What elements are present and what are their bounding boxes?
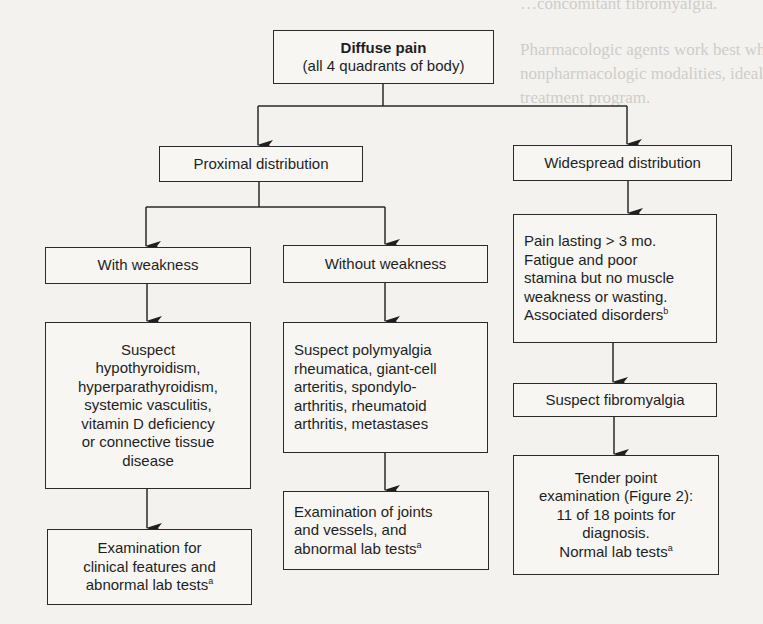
node-line: diagnosis.	[582, 524, 650, 543]
node-exam-with-weakness: Examination for clinical features and ab…	[47, 529, 252, 605]
node-widespread-distribution: Widespread distribution	[513, 145, 732, 181]
node-line: stamina but no muscle	[524, 269, 706, 288]
node-line: Associated disordersb	[524, 306, 706, 325]
node-label: Proximal distribution	[193, 155, 328, 174]
node-line: weakness or wasting.	[524, 288, 706, 307]
node-label: Without weakness	[325, 255, 447, 274]
node-suspect-fibromyalgia: Suspect fibromyalgia	[513, 383, 717, 417]
node-suspect-without-weakness: Suspect polymyalgia rheumatica, giant-ce…	[283, 322, 488, 453]
node-line: Normal lab testsa	[559, 543, 672, 562]
node-line: arthritis, rheumatoid	[294, 397, 477, 416]
node-line: arthritis, metastases	[294, 415, 477, 434]
node-line: Pain lasting > 3 mo.	[524, 232, 706, 251]
node-diffuse-pain: Diffuse pain (all 4 quadrants of body)	[273, 30, 494, 84]
node-line: examination (Figure 2):	[539, 487, 693, 506]
node-line: hypothyroidism,	[95, 359, 200, 378]
node-line: abnormal lab testsa	[294, 540, 478, 559]
node-suspect-with-weakness: Suspect hypothyroidism, hyperparathyroid…	[45, 322, 251, 489]
node-line: systemic vasculitis,	[84, 396, 212, 415]
node-with-weakness: With weakness	[45, 247, 251, 284]
node-line: or connective tissue	[82, 433, 215, 452]
node-without-weakness: Without weakness	[283, 245, 488, 283]
node-line: 11 of 18 points for	[557, 506, 676, 525]
footnote-marker: a	[208, 576, 213, 586]
node-line: Suspect	[121, 341, 175, 360]
node-line: abnormal lab testsa	[86, 576, 214, 595]
node-label: With weakness	[98, 256, 199, 275]
node-tender-point-exam: Tender point examination (Figure 2): 11 …	[513, 455, 719, 575]
node-line: disease	[122, 452, 174, 471]
node-line: rheumatica, giant-cell	[294, 360, 477, 379]
node-proximal-distribution: Proximal distribution	[159, 146, 363, 182]
node-exam-without-weakness: Examination of joints and vessels, and a…	[283, 491, 489, 570]
node-title: Diffuse pain	[341, 39, 427, 58]
node-line: arteritis, spondylo-	[294, 378, 477, 397]
node-line: Suspect polymyalgia	[294, 341, 477, 360]
node-line: Tender point	[575, 469, 658, 488]
node-label: Widespread distribution	[544, 154, 701, 173]
node-line: vitamin D deficiency	[81, 415, 214, 434]
node-line: Fatigue and poor	[524, 251, 706, 270]
node-pain-lasting: Pain lasting > 3 mo. Fatigue and poor st…	[513, 214, 717, 343]
node-line: Examination for	[97, 539, 201, 558]
node-line: Examination of joints	[294, 503, 478, 522]
node-line: and vessels, and	[294, 521, 478, 540]
footnote-marker: a	[417, 540, 422, 550]
footnote-marker: b	[663, 306, 668, 316]
footnote-marker: a	[668, 543, 673, 553]
node-line: clinical features and	[83, 558, 216, 577]
node-subtitle: (all 4 quadrants of body)	[303, 57, 465, 76]
node-label: Suspect fibromyalgia	[545, 391, 684, 410]
node-line: hyperparathyroidism,	[78, 378, 218, 397]
